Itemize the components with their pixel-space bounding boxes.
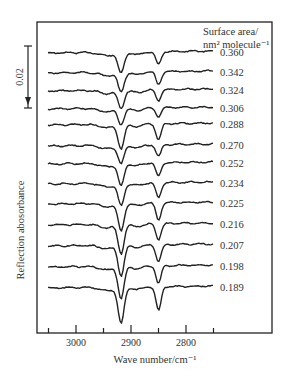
series-label: 0.252: [220, 158, 244, 169]
series-label: 0.306: [220, 103, 244, 114]
scale-bar-label: 0.02: [14, 68, 25, 86]
legend-title-line1: Surface area/: [203, 26, 258, 37]
series-label: 0.342: [220, 67, 244, 78]
spectrum-line: [48, 143, 213, 164]
series-label: 0.189: [220, 282, 244, 293]
spectrum-line: [48, 265, 213, 299]
spectrum-line: [48, 285, 213, 323]
spectrum-line: [48, 201, 213, 231]
x-tick-label: 3000: [66, 337, 86, 348]
x-axis-label: Wave number/cm⁻¹: [114, 354, 197, 365]
spectrum-line: [48, 243, 213, 276]
series-label: 0.360: [220, 47, 244, 58]
x-tick-label: 2900: [121, 337, 141, 348]
series-label: 0.207: [220, 240, 244, 251]
y-axis-label: Reflection abosorbance: [15, 180, 26, 279]
series-label: 0.225: [220, 198, 244, 209]
scale-bar: [24, 46, 32, 108]
series-label: 0.216: [220, 219, 244, 230]
series-label: 0.288: [220, 119, 244, 130]
series-label: 0.270: [220, 140, 244, 151]
spectra-group: 0.3600.3420.3240.3060.2880.2700.2520.234…: [48, 47, 244, 323]
spectrum-line: [48, 88, 213, 108]
spectrum-line: [48, 106, 213, 124]
x-tick-label: 2800: [176, 337, 196, 348]
spectrum-line: [48, 222, 213, 254]
arrow-down-icon: [25, 97, 31, 105]
x-axis-ticks: 300029002800: [49, 325, 214, 348]
spectrum-line: [48, 50, 213, 72]
series-label: 0.234: [220, 178, 244, 189]
series-label: 0.324: [220, 85, 244, 96]
ir-spectra-chart: Surface area/ nm² molecule⁻¹ 0.02 Reflec…: [0, 0, 288, 382]
series-label: 0.198: [220, 261, 244, 272]
